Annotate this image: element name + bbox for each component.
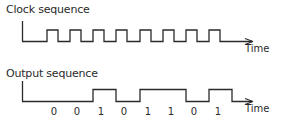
output-bit: 0 [119, 106, 129, 117]
output-bit: 0 [49, 106, 59, 117]
timing-diagram [0, 0, 282, 130]
output-bit: 1 [213, 106, 223, 117]
clock-waveform [22, 21, 252, 42]
output-bit: 1 [166, 106, 176, 117]
output-time-label: Time [245, 103, 269, 114]
output-bit: 0 [189, 106, 199, 117]
clock-time-label: Time [245, 43, 269, 54]
output-waveform [22, 81, 252, 102]
output-bit: 0 [72, 106, 82, 117]
output-bit: 1 [96, 106, 106, 117]
output-bit: 1 [143, 106, 153, 117]
